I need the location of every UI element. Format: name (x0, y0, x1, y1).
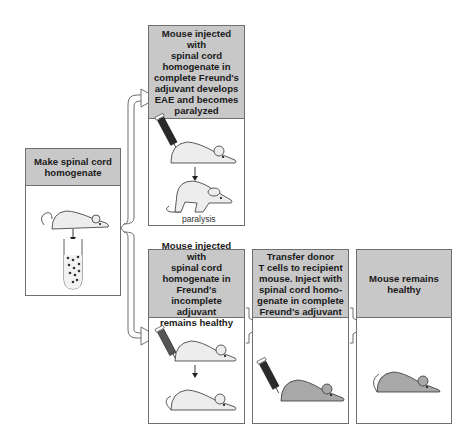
paralysis-caption: paralysis (182, 214, 216, 224)
mouse-icon (166, 390, 236, 410)
mouse-icon (171, 142, 236, 163)
mouse-icon (175, 341, 236, 361)
test-tube-icon (64, 239, 82, 289)
bracket-connector (121, 95, 141, 338)
panel-outcome-healthy: Mouse remains healthy (356, 249, 452, 424)
syringe-icon (155, 113, 181, 151)
panel-prepare-homogenate: Make spinal cord homogenate (25, 148, 121, 296)
gray-mouse-icon (373, 372, 440, 392)
mouse-icon (41, 211, 108, 229)
arrow-down-icon (192, 365, 198, 378)
paralyzed-mouse-icon (166, 181, 232, 212)
gray-mouse-icon (281, 380, 344, 401)
panel-transfer-t-cells: Transfer donor T cells to recipient mous… (252, 249, 349, 424)
panel-complete-adjuvant: Mouse injected with spinal cord homogena… (148, 25, 245, 226)
arrow-down-icon (192, 167, 198, 181)
syringe-icon (257, 357, 283, 395)
panel-incomplete-adjuvant: Mouse injected with spinal cord homogena… (148, 249, 245, 424)
